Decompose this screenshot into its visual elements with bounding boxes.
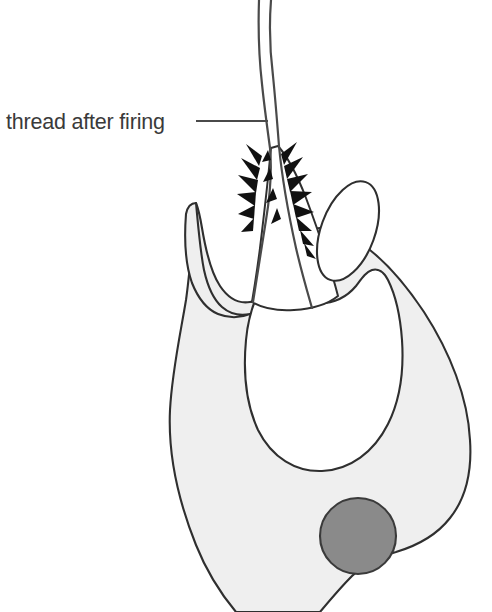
spine-icon xyxy=(238,175,258,193)
label-thread-after-firing: thread after firing xyxy=(6,110,165,134)
nucleus-shape xyxy=(320,498,396,574)
diagram-canvas: thread after firing xyxy=(0,0,492,612)
nematocyst-diagram: thread after firing xyxy=(0,0,492,612)
spine-icon xyxy=(241,218,254,232)
spine-icon xyxy=(237,192,256,206)
spine-icon xyxy=(238,205,255,219)
